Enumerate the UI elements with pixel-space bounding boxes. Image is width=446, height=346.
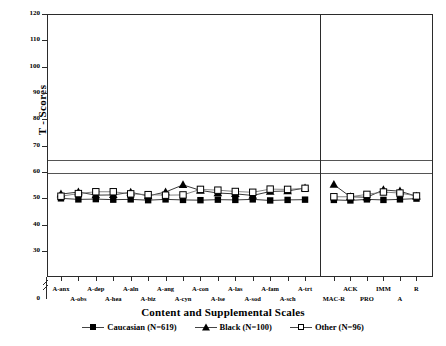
panel-divider — [320, 15, 321, 276]
x-axis-tick-mark — [288, 277, 289, 281]
x-axis-tick-label: A-anx — [52, 286, 69, 293]
legend-item: Caucasian (N=619) — [82, 322, 176, 332]
x-axis-tick-mark — [166, 277, 167, 281]
x-axis-tick-label: A-hea — [105, 296, 122, 303]
reference-line — [48, 173, 432, 174]
legend-label: Other (N=96) — [315, 322, 364, 332]
y-axis-tick-label: 120 — [10, 10, 40, 17]
x-axis-tick-mark — [96, 277, 97, 281]
x-axis-tick-label: A-cyn — [175, 296, 192, 303]
x-axis-tick-label: A-lse — [211, 296, 225, 303]
axis-break-icon — [42, 276, 53, 292]
legend-label: Black (N=100) — [220, 322, 272, 332]
x-axis-tick-mark — [61, 277, 62, 281]
x-axis-tick-mark — [367, 277, 368, 281]
y-axis-tail — [46, 277, 47, 299]
legend-item: Black (N=100) — [195, 322, 272, 332]
x-axis-tick-label: MAC-R — [323, 296, 345, 303]
legend-marker-icon — [82, 322, 104, 332]
plot-area — [47, 14, 433, 277]
x-axis-tick-label: A-con — [192, 286, 209, 293]
x-axis-tick-label: A-las — [228, 286, 242, 293]
x-axis-tick-mark — [350, 277, 351, 281]
x-axis-tick-mark — [218, 277, 219, 281]
y-axis-tick-label: 100 — [10, 63, 40, 70]
chart-legend: Caucasian (N=619)Black (N=100)Other (N=9… — [0, 322, 446, 332]
x-axis-tick-label: R — [414, 286, 419, 293]
x-axis-tick-mark — [383, 277, 384, 281]
x-axis-tick-mark — [131, 277, 132, 281]
x-axis-tick-label: A-biz — [141, 296, 156, 303]
x-axis-tick-mark — [416, 277, 417, 281]
y-axis-tick-label: 50 — [10, 194, 40, 201]
legend-marker-icon — [195, 322, 217, 332]
reference-line — [48, 160, 432, 161]
x-axis-tick-label: PRO — [360, 296, 374, 303]
y-axis-tick-label: 60 — [10, 168, 40, 175]
x-axis-tick-label: A-aln — [123, 286, 139, 293]
y-axis-tick-label: 0 — [10, 295, 40, 302]
x-axis-tick-mark — [113, 277, 114, 281]
x-axis-tick-label: A — [398, 296, 403, 303]
x-axis-tick-label: A-dep — [87, 286, 104, 293]
legend-label: Caucasian (N=619) — [107, 322, 176, 332]
x-axis-tick-mark — [78, 277, 79, 281]
x-axis-tick-label: A-sch — [280, 296, 296, 303]
y-axis-tick-label: 30 — [10, 247, 40, 254]
y-axis-tick-label: 110 — [10, 36, 40, 43]
x-axis-tick-label: ACK — [343, 286, 357, 293]
legend-item: Other (N=96) — [290, 322, 364, 332]
x-axis-tick-mark — [183, 277, 184, 281]
y-axis-tick-label: 70 — [10, 142, 40, 149]
x-axis-tick-mark — [400, 277, 401, 281]
x-axis-tick-label: A-ang — [157, 286, 174, 293]
x-axis-tick-mark — [148, 277, 149, 281]
x-axis-tick-mark — [334, 277, 335, 281]
y-axis-tick-label: 80 — [10, 115, 40, 122]
x-axis-tick-label: A-sod — [245, 296, 261, 303]
x-axis-tick-label: IMM — [376, 286, 391, 293]
x-axis-tick-mark — [270, 277, 271, 281]
x-axis-tick-label: A-obs — [70, 296, 86, 303]
x-axis-tick-mark — [235, 277, 236, 281]
x-axis-tick-mark — [305, 277, 306, 281]
x-axis-tick-mark — [200, 277, 201, 281]
x-axis-tick-label: A-trt — [298, 286, 312, 293]
x-axis-tick-mark — [253, 277, 254, 281]
chart-container: T - Scores 030405060708090100110120 A-an… — [0, 0, 446, 346]
x-axis-title: Content and Supplemental Scales — [0, 306, 446, 318]
y-axis-tick-label: 40 — [10, 221, 40, 228]
legend-marker-icon — [290, 322, 312, 332]
x-axis-tick-label: A-fam — [261, 286, 279, 293]
y-axis-tick-label: 90 — [10, 89, 40, 96]
